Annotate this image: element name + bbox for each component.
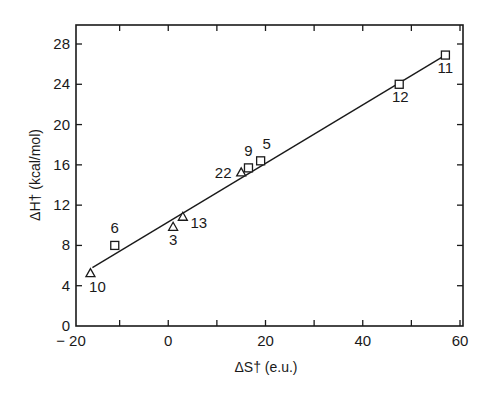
chart: − 200204060 0481216202428 69512111031322… [0,0,493,394]
point-labels: 69512111031322 [89,59,453,295]
point-label: 10 [89,278,106,295]
x-tick-label: − 20 [56,332,86,349]
x-tick-label: 20 [257,332,274,349]
square-marker [111,241,119,249]
plot-frame [76,25,463,326]
square-marker [257,157,265,165]
point-label: 22 [215,164,232,181]
point-label: 3 [169,231,177,248]
y-tick-label: 24 [53,75,70,92]
y-axis-tick-labels: 0481216202428 [53,35,70,334]
point-label: 9 [244,142,252,159]
square-marker [441,51,449,59]
y-tick-label: 20 [53,116,70,133]
point-label: 13 [190,214,207,231]
y-axis-label: ΔH† (kcal/mol) [27,129,43,221]
y-tick-label: 4 [62,277,70,294]
y-tick-label: 0 [62,317,70,334]
y-tick-label: 16 [53,156,70,173]
triangle-marker [169,222,178,230]
triangle-marker [86,269,95,277]
y-tick-label: 28 [53,35,70,52]
point-label: 11 [438,59,454,76]
x-tick-label: 0 [164,332,172,349]
x-axis-label: ΔS† (e.u.) [234,359,297,375]
x-axis-ticks [120,25,460,326]
point-label: 12 [392,88,409,105]
point-label: 6 [111,219,119,236]
square-marker [244,164,252,172]
data-markers [86,51,449,277]
x-axis-tick-labels: − 200204060 [56,332,468,349]
square-marker [395,80,403,88]
y-axis-ticks [76,44,463,286]
triangle-marker [178,212,187,220]
y-tick-label: 12 [53,196,70,213]
x-tick-label: 60 [452,332,469,349]
fit-line [92,55,445,268]
y-tick-label: 8 [62,236,70,253]
point-label: 5 [262,135,270,152]
x-tick-label: 40 [354,332,371,349]
